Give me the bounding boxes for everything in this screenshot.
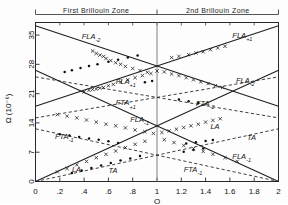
curve-annotation-label: FTA	[196, 99, 210, 108]
curve-annotation-label: FLA	[236, 76, 250, 85]
data-marker-cross	[177, 74, 180, 77]
data-marker-cross	[223, 45, 226, 48]
curve-annotation-subscript: -1	[69, 137, 74, 143]
data-marker-dot	[78, 136, 81, 139]
curve-annotation-label: FLA	[232, 31, 246, 40]
x-tick-label-4: .8	[129, 187, 136, 196]
data-marker-cross	[114, 149, 117, 152]
curve-annotation-label: FTA	[184, 165, 198, 174]
curve-annotation-subscript: -2	[210, 104, 215, 110]
data-marker-cross	[85, 160, 88, 163]
data-marker-cross	[163, 70, 166, 73]
data-marker-dot	[117, 142, 120, 145]
x-tick-label-3: .6	[105, 187, 112, 196]
curve-annotation-label: FTA	[55, 132, 69, 141]
data-marker-cross	[189, 124, 192, 127]
curve-annotation: TA	[247, 133, 256, 142]
data-marker-cross	[133, 143, 136, 146]
data-marker-cross	[95, 87, 99, 90]
x-axis-title: Q	[154, 197, 160, 205]
curve-annotation-label: FLA	[116, 77, 130, 86]
data-marker-dot	[178, 98, 181, 101]
data-marker-cross	[91, 88, 94, 91]
data-marker-cross	[104, 153, 107, 156]
curve-annotation-subscript: -2	[250, 81, 255, 87]
data-marker-cross	[91, 49, 94, 52]
y-tick-label-5: 35	[27, 30, 36, 39]
data-marker-dot	[212, 139, 215, 142]
data-marker-dot	[151, 80, 154, 83]
y-axis-title-wrap: Ω (10⁻⁶)	[2, 78, 16, 138]
dispersion-plot: First Brillouin Zone2nd Brillouin Zone0.…	[0, 0, 288, 204]
curve-annotation-label: FLA	[130, 115, 144, 124]
data-marker-dot	[185, 142, 188, 145]
y-tick-label-3: 21	[27, 89, 36, 98]
curve-annotation-subscript: -1	[246, 157, 251, 163]
data-marker-dot	[88, 137, 91, 140]
data-marker-cross	[87, 89, 90, 92]
data-marker-dot	[202, 147, 205, 150]
data-marker-cross	[98, 87, 101, 90]
data-marker-cross	[75, 116, 78, 119]
zone-label-0: First Brillouin Zone	[63, 7, 129, 14]
curve-annotation-subscript: +1	[129, 82, 135, 88]
data-marker-cross	[65, 115, 68, 118]
x-tick-label-9: 1.8	[249, 187, 261, 196]
figure-root: First Brillouin Zone2nd Brillouin Zone0.…	[0, 0, 288, 204]
data-marker-cross	[170, 56, 173, 59]
data-marker-dot	[144, 81, 147, 84]
curve-annotation-subscript: -2	[95, 37, 100, 43]
data-marker-cross	[182, 126, 185, 129]
data-marker-cross	[177, 55, 180, 58]
data-marker-dot	[192, 149, 195, 152]
curve-annotation-subscript: +1	[246, 36, 252, 42]
data-marker-dot	[182, 151, 185, 154]
data-marker-cross	[124, 126, 127, 129]
data-marker-dot	[79, 67, 82, 70]
data-marker-dot	[63, 71, 66, 74]
data-marker-cross	[98, 53, 101, 56]
x-tick-label-10: 2	[276, 187, 281, 196]
data-marker-cross	[104, 123, 107, 126]
data-marker-dot	[96, 63, 99, 66]
data-marker-dot	[110, 162, 113, 165]
y-tick-label-1: 7	[27, 149, 36, 154]
curve-annotation-label: FLA	[82, 32, 96, 41]
data-marker-cross	[95, 52, 99, 55]
y-tick-label-0: 0	[27, 179, 36, 184]
data-marker-cross	[56, 113, 59, 116]
curve-annotation: FLA+1	[116, 77, 136, 88]
data-marker-cross	[124, 65, 127, 68]
data-marker-dot	[139, 155, 142, 158]
curve-annotation: TA	[108, 166, 117, 175]
data-marker-cross	[185, 76, 188, 79]
data-marker-cross	[149, 72, 152, 75]
data-marker-cross	[114, 61, 117, 64]
data-marker-dot	[107, 140, 110, 143]
data-marker-cross	[85, 118, 88, 121]
data-marker-cross	[141, 74, 144, 77]
data-marker-cross	[202, 150, 205, 153]
curve-annotation-label: LA	[72, 165, 81, 174]
x-tick-label-6: 1.2	[176, 187, 188, 196]
data-marker-dot	[187, 100, 190, 103]
data-marker-cross	[211, 153, 214, 156]
x-tick-label-1: .2	[56, 187, 63, 196]
curve-annotation-subscript: -1	[198, 170, 203, 176]
x-tick-label-7: 1.4	[200, 187, 212, 196]
x-tick-label-0: 0	[33, 187, 38, 196]
data-marker-cross	[143, 140, 146, 143]
data-marker-dot	[127, 56, 130, 59]
data-marker-cross	[219, 117, 222, 120]
curve-annotation-subscript: +1	[129, 104, 135, 110]
data-marker-cross	[182, 144, 185, 147]
curve-annotation-label: LA	[210, 122, 219, 131]
x-tick-label-8: 1.6	[224, 187, 236, 196]
data-marker-cross	[152, 132, 155, 135]
data-marker-cross	[163, 138, 166, 141]
data-marker-dot	[117, 58, 120, 61]
data-marker-cross	[107, 84, 110, 87]
x-tick-label-5: 1	[155, 187, 160, 196]
curve-annotation: FTA-1	[184, 165, 203, 176]
data-marker-dot	[204, 140, 207, 143]
